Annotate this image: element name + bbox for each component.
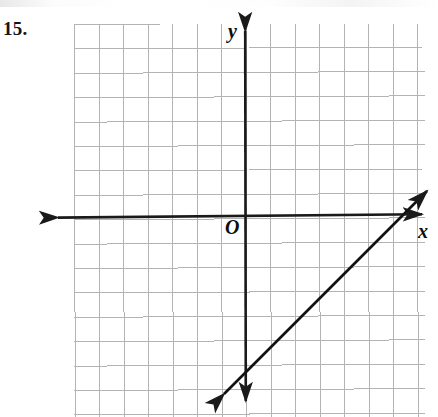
plot-overlay	[0, 0, 438, 417]
origin-label: O	[225, 216, 239, 239]
plotted-line	[224, 191, 427, 394]
coordinate-grid-figure: 15.	[0, 0, 438, 417]
x-axis	[58, 214, 422, 217]
x-axis-label: x	[418, 220, 428, 243]
y-axis	[245, 31, 246, 401]
y-axis-label: y	[228, 20, 237, 43]
